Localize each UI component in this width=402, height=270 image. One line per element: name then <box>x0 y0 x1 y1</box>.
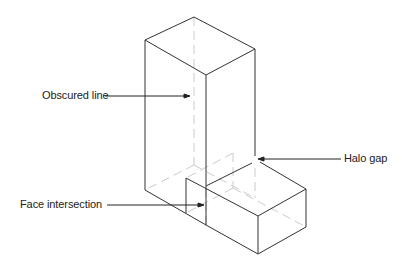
hidden-bottom-left-edge <box>145 165 194 190</box>
small-box-top-back-edge <box>206 163 252 186</box>
tall-box-top-face <box>145 17 255 75</box>
halo-gap-label: Halo gap <box>344 152 387 164</box>
obscured-line-label: Obscured line <box>42 89 109 101</box>
face-intersection-label: Face intersection <box>20 198 102 210</box>
hidden-small-box-bottom-back <box>233 188 306 227</box>
small-box-top-side-edge <box>258 189 306 216</box>
tall-box-bottom-edge <box>145 190 206 225</box>
small-box-bottom-side-edge <box>258 227 306 254</box>
arrowhead-icon <box>258 157 264 161</box>
hidden-bottom-right-edge <box>194 165 255 198</box>
hidden-small-box-bottom-left <box>186 188 233 213</box>
isometric-boxes-drawing <box>0 0 402 270</box>
hidden-lines <box>145 17 306 227</box>
small-box-bottom-front-edge <box>206 225 258 254</box>
visible-lines <box>145 17 306 254</box>
small-box-top-right-edge <box>260 162 306 189</box>
arrowhead-icon <box>184 94 190 98</box>
small-box-top-front-edge <box>186 178 258 216</box>
